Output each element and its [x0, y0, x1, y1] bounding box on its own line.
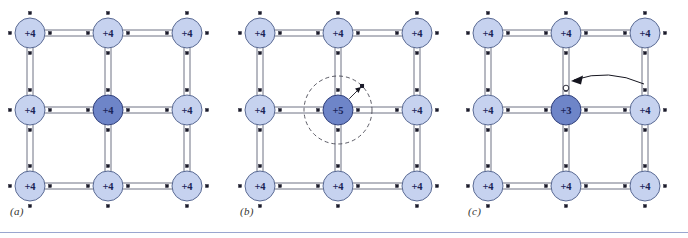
electron-dot: [127, 185, 130, 188]
electron-dot: [545, 32, 548, 35]
silicon-atom[interactable]: +4: [172, 171, 202, 201]
silicon-atom[interactable]: +4: [245, 18, 275, 48]
electron-dot: [107, 165, 110, 168]
electron-dot: [87, 32, 90, 35]
electron-dot: [107, 89, 110, 92]
silicon-atom[interactable]: +4: [630, 18, 660, 48]
silicon-atom[interactable]: +4: [473, 171, 503, 201]
atom-charge-label: +4: [482, 28, 494, 39]
electron-dot: [337, 129, 340, 132]
electron-dot: [166, 109, 169, 112]
electron-dot: [644, 165, 647, 168]
electron-dot: [416, 129, 419, 132]
atom-charge-label: +4: [560, 28, 572, 39]
doped-atom[interactable]: +3: [551, 95, 581, 125]
electron-dot: [317, 109, 320, 112]
silicon-atom[interactable]: +4: [473, 95, 503, 125]
atom-charge-label: +4: [332, 28, 344, 39]
silicon-atom[interactable]: +4: [323, 18, 353, 48]
silicon-atom[interactable]: +4: [245, 95, 275, 125]
atom-charge-label: +4: [254, 28, 266, 39]
electron-dot: [279, 185, 282, 188]
silicon-atom[interactable]: +4: [402, 171, 432, 201]
electron-dot: [87, 185, 90, 188]
electron-dot: [317, 32, 320, 35]
electron-dot: [186, 52, 189, 55]
electron-dot: [29, 129, 32, 132]
atom-charge-label: +4: [181, 105, 193, 116]
atom-charge-label: +4: [332, 181, 344, 192]
doped-atom[interactable]: +5: [323, 95, 353, 125]
electron-dot: [357, 185, 360, 188]
electron-dot: [259, 205, 262, 208]
electron-dot: [396, 109, 399, 112]
electron-dot: [507, 185, 510, 188]
panel-label-c: (c): [468, 205, 481, 217]
hole-motion-arrow: [574, 75, 644, 84]
electron-dot: [166, 32, 169, 35]
electron-dot: [127, 32, 130, 35]
electron-dot: [585, 109, 588, 112]
electron-dot: [487, 52, 490, 55]
electron-dot: [396, 185, 399, 188]
silicon-atom[interactable]: +4: [172, 18, 202, 48]
electron-dot: [279, 32, 282, 35]
electron-dot: [186, 89, 189, 92]
electron-dot: [585, 32, 588, 35]
electron-dot: [239, 109, 242, 112]
electron-dot: [565, 52, 568, 55]
electron-dot: [186, 165, 189, 168]
electron-dot: [29, 12, 32, 15]
doped-atom[interactable]: +4: [93, 95, 123, 125]
electron-dot: [467, 32, 470, 35]
atom-charge-label: +4: [181, 181, 193, 192]
silicon-atom[interactable]: +4: [15, 18, 45, 48]
electron-dot: [29, 165, 32, 168]
electron-dot: [416, 205, 419, 208]
electron-dot: [416, 165, 419, 168]
electron-dot: [107, 52, 110, 55]
atom-charge-label: +4: [639, 28, 651, 39]
silicon-atom[interactable]: +4: [15, 95, 45, 125]
silicon-atom[interactable]: +4: [402, 95, 432, 125]
silicon-atom[interactable]: +4: [93, 18, 123, 48]
atom-charge-label: +4: [639, 181, 651, 192]
panel-label-a: (a): [10, 205, 24, 217]
electron-dot: [664, 32, 667, 35]
electron-dot: [585, 185, 588, 188]
silicon-atom[interactable]: +4: [323, 171, 353, 201]
electron-dot: [337, 205, 340, 208]
atom-charge-label: +4: [254, 105, 266, 116]
hole-circle: [563, 85, 569, 91]
silicon-atom[interactable]: +4: [172, 95, 202, 125]
electron-dot: [337, 89, 340, 92]
electron-dot: [416, 12, 419, 15]
silicon-atom[interactable]: +4: [245, 171, 275, 201]
silicon-atom[interactable]: +4: [473, 18, 503, 48]
electron-dot: [644, 12, 647, 15]
electron-dot: [29, 52, 32, 55]
silicon-atom[interactable]: +4: [630, 95, 660, 125]
semiconductor-doping-figure: +4+4+4+4+4+4+4+4+4(a)+4+4+4+4+5+4+4+4+4(…: [0, 0, 688, 238]
electron-dot: [436, 32, 439, 35]
electron-dot: [487, 205, 490, 208]
silicon-atom[interactable]: +4: [551, 171, 581, 201]
atom-layer: +4+4+4+4+3+4+4+4+4: [473, 18, 660, 201]
silicon-atom[interactable]: +4: [551, 18, 581, 48]
silicon-atom[interactable]: +4: [402, 18, 432, 48]
silicon-atom[interactable]: +4: [93, 171, 123, 201]
atom-charge-label: +4: [24, 181, 36, 192]
electron-dot: [317, 185, 320, 188]
electron-dot: [416, 52, 419, 55]
electron-dot: [487, 89, 490, 92]
lattice-diagram-c: +4+4+4+4+3+4+4+4+4: [458, 0, 688, 215]
silicon-atom[interactable]: +4: [15, 171, 45, 201]
atom-charge-label: +4: [482, 105, 494, 116]
electron-dot: [644, 129, 647, 132]
electron-dot: [107, 12, 110, 15]
atom-charge-label: +4: [102, 28, 114, 39]
silicon-atom[interactable]: +4: [630, 171, 660, 201]
electron-dot: [467, 109, 470, 112]
electron-dot: [206, 32, 209, 35]
atom-layer: +4+4+4+4+4+4+4+4+4: [15, 18, 202, 201]
